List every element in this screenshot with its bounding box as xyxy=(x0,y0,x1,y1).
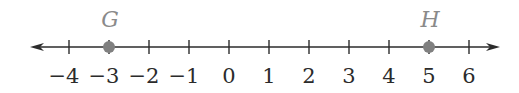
tick-label: 2 xyxy=(302,64,315,88)
point-label-h: H xyxy=(419,7,440,32)
tick-labels: −4−3−2−10123456 xyxy=(49,64,476,88)
tick-label: −3 xyxy=(89,64,120,88)
tick-label: 0 xyxy=(222,64,235,88)
point-g xyxy=(103,41,115,53)
point-label-g: G xyxy=(101,7,119,32)
tick-label: 4 xyxy=(382,64,395,88)
point-h xyxy=(423,41,435,53)
tick-label: 5 xyxy=(422,64,435,88)
tick-label: 3 xyxy=(342,64,355,88)
tick-label: −1 xyxy=(169,64,200,88)
tick-label: 6 xyxy=(462,64,475,88)
number-line: −4−3−2−10123456 GH xyxy=(0,0,519,93)
tick-label: 1 xyxy=(262,64,275,88)
tick-label: −4 xyxy=(49,64,80,88)
tick-label: −2 xyxy=(129,64,160,88)
